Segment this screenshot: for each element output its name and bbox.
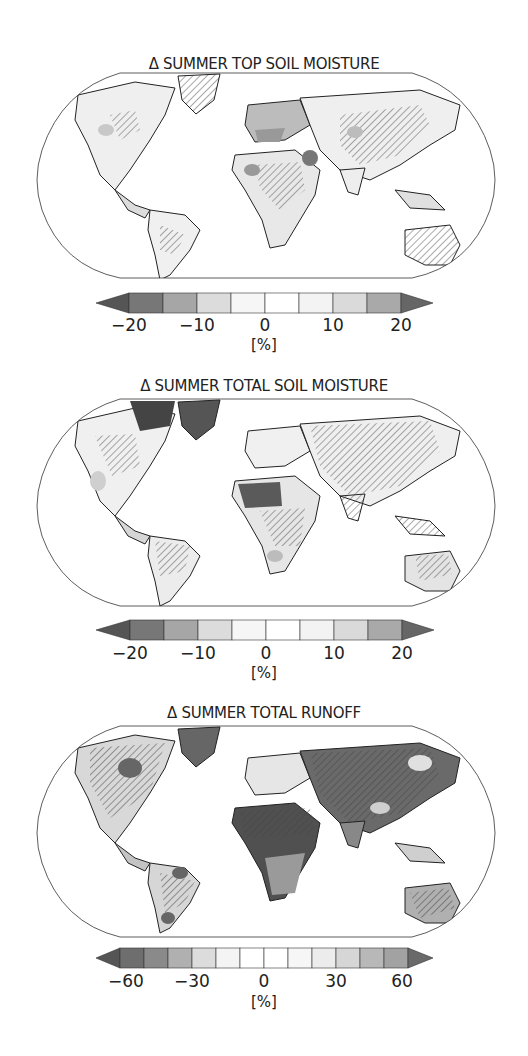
colorbar — [0, 947, 528, 969]
colorbar-unit: [%] — [0, 993, 528, 1011]
tick-label: 0 — [259, 971, 270, 991]
tick-label: 60 — [391, 971, 413, 991]
tick-label: 30 — [325, 971, 347, 991]
world-map — [0, 723, 528, 947]
colorbar-ticks: −60 −30 0 30 60 — [0, 971, 528, 991]
panel-total-runoff: Δ SUMMER TOTAL RUNOFF — [0, 0, 528, 1056]
panel-title: Δ SUMMER TOTAL RUNOFF — [0, 704, 528, 722]
tick-label: −60 — [108, 971, 144, 991]
tick-label: −30 — [174, 971, 210, 991]
